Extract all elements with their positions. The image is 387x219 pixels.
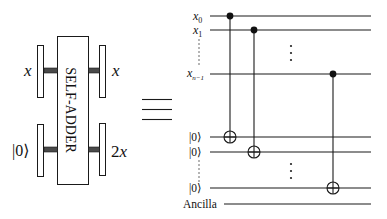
control-dot-icon (227, 13, 234, 20)
input-label-x: x (23, 61, 32, 80)
cnot-gate-n-1 (327, 71, 339, 194)
cnot-gate-1 (248, 27, 260, 158)
ellipsis-left-lower (198, 160, 199, 181)
wire-label-x1: x1 (192, 23, 202, 39)
output-register-2x (100, 124, 106, 176)
wire-label-ancilla: Ancilla (183, 198, 217, 210)
connector-out-x (89, 68, 100, 73)
output-label-x: x (111, 61, 120, 80)
output-label-2x: 2x (111, 142, 128, 161)
cnot-circuit: x0 x1 xn−1 |0⟩ |0⟩ |0⟩ Ancilla (183, 9, 371, 210)
connector-in-x (44, 68, 58, 73)
equivalence-symbol (142, 100, 172, 120)
ellipsis-middle-upper (290, 45, 292, 61)
connector-out-2x (89, 147, 100, 152)
input-register-x (38, 46, 44, 98)
wire-label-ket-zero-0: |0⟩ (189, 131, 202, 144)
wire-label-xn-1: xn−1 (186, 66, 204, 82)
diagram-canvas: SELF-ADDER x |0⟩ x 2x x0 x1 xn−1 |0⟩ |0⟩… (0, 0, 387, 219)
self-adder-label: SELF-ADDER (63, 67, 78, 153)
ellipsis-left-upper (198, 39, 199, 64)
control-dot-icon (251, 27, 258, 34)
ellipsis-middle-lower (290, 163, 292, 179)
cnot-gate-0 (224, 13, 236, 143)
output-register-x (100, 46, 106, 98)
self-adder-block: SELF-ADDER x |0⟩ x 2x (12, 37, 128, 185)
wire-label-ket-zero-n-1: |0⟩ (189, 182, 202, 195)
connector-in-zero (44, 147, 58, 152)
control-dot-icon (330, 71, 337, 78)
input-label-ket-zero: |0⟩ (12, 142, 29, 160)
wire-label-ket-zero-1: |0⟩ (189, 146, 202, 159)
input-register-zero (38, 125, 44, 177)
